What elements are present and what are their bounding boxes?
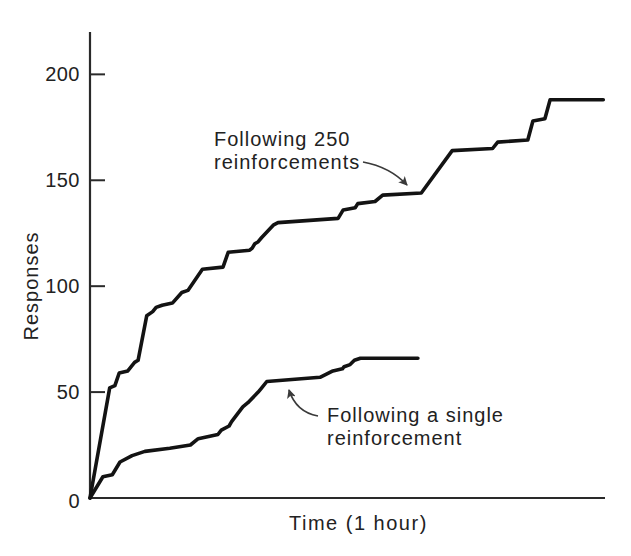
annotation-text-line: reinforcements bbox=[214, 151, 360, 174]
y-tick-label-0: 0 bbox=[0, 489, 80, 513]
arrow-to-250-curve bbox=[363, 162, 407, 185]
y-tick-label-150: 150 bbox=[0, 168, 80, 192]
annotation-text-line: reinforcement bbox=[327, 427, 504, 450]
annotation-text-line: Following a single bbox=[327, 404, 504, 427]
chart-canvas bbox=[0, 0, 631, 556]
annotation-following-250-reinforcements: Following 250 reinforcements bbox=[214, 128, 360, 174]
y-tick-label-200: 200 bbox=[0, 62, 80, 86]
cumulative-response-chart: Responses Time (1 hour) Following 250 re… bbox=[0, 0, 631, 556]
y-tick-label-50: 50 bbox=[0, 380, 80, 404]
y-tick-label-100: 100 bbox=[0, 274, 80, 298]
annotation-text-line: Following 250 bbox=[214, 128, 360, 151]
x-axis-title: Time (1 hour) bbox=[289, 512, 428, 535]
arrow-to-single-curve bbox=[289, 390, 318, 416]
annotation-following-single-reinforcement: Following a single reinforcement bbox=[327, 404, 504, 450]
